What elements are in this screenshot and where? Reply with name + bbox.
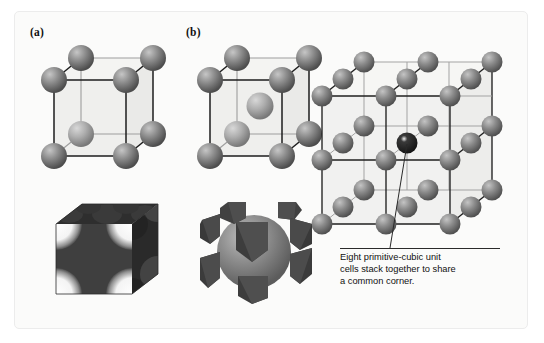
corner-sphere [224,121,250,147]
panel-label-b: (b) [186,26,201,38]
annotation-rule [340,248,500,249]
caption-line-2: cells stack together to share [340,264,502,276]
corner-sphere [140,121,166,147]
primitive-cubic-unit-cell [26,44,166,189]
corner-sphere [41,67,67,93]
body-centered-cubic-cutaway [190,192,322,310]
corner-sphere [140,45,166,71]
corner-sphere [68,45,94,71]
corner-sphere [113,67,139,93]
corner-sphere [269,143,295,169]
corner-sphere [41,143,67,169]
corner-sphere [197,143,223,169]
corner-sphere [197,67,223,93]
primitive-cubic-cutaway [38,192,166,310]
figure-canvas: (a) (b) [0,0,544,343]
corner-sphere [269,67,295,93]
corner-sphere [224,45,250,71]
corner-sphere [113,143,139,169]
annotation-leader-line [370,140,430,252]
annotation-caption: Eight primitive-cubic unit cells stack t… [340,252,502,287]
caption-line-1: Eight primitive-cubic unit [340,252,502,264]
body-center-sphere [247,93,274,120]
caption-line-3: a common corner. [340,276,502,288]
corner-sphere [68,121,94,147]
panel-label-a: (a) [30,26,44,38]
